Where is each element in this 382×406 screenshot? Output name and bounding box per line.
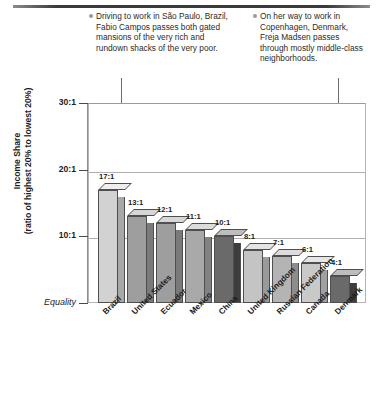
bar-value-label-0: 17:1 <box>99 172 114 181</box>
bar-value-label-3: 11:1 <box>186 212 201 221</box>
header-rule <box>13 5 370 8</box>
chart-figure: Driving to work in São Paulo, Brazil, Fa… <box>0 0 382 406</box>
bar-value-label-7: 6:1 <box>302 245 313 254</box>
y-tick-1 <box>79 170 88 171</box>
bar-front-face <box>127 216 147 303</box>
bar-value-label-5: 8:1 <box>244 232 255 241</box>
bullet-icon <box>89 14 93 18</box>
annotation-copenhagen: On her way to work in Copenhagen, Denmar… <box>253 11 369 64</box>
y-tick-2 <box>79 236 88 237</box>
y-axis-title: Income Share (ratio of highest 20% to lo… <box>12 66 34 256</box>
bar-value-label-6: 7:1 <box>273 238 284 247</box>
annotation-text: Driving to work in São Paulo, Brazil, Fa… <box>96 11 228 53</box>
annotation-sao-paulo: Driving to work in São Paulo, Brazil, Fa… <box>89 11 229 53</box>
bar-front-face <box>214 236 234 303</box>
bar-china <box>214 236 234 303</box>
y-tick-label-3: Equality <box>0 297 76 307</box>
bar-side-face <box>234 243 241 303</box>
gridline-20 <box>89 172 365 173</box>
y-axis-title-line1: Income Share <box>12 66 23 256</box>
y-tick-0 <box>79 103 88 104</box>
y-tick-label-2: 10:1 <box>0 230 76 240</box>
bar-side-face <box>118 197 125 303</box>
y-axis-title-line2: (ratio of highest 20% to lowest 20%) <box>23 66 34 256</box>
y-tick-label-1: 20:1 <box>0 164 76 174</box>
bar-brazil <box>98 190 118 303</box>
bar-value-label-1: 13:1 <box>128 198 143 207</box>
y-tick-3 <box>79 303 88 304</box>
bar-value-label-2: 12:1 <box>157 205 172 214</box>
annotation-text: On her way to work in Copenhagen, Denmar… <box>260 11 363 63</box>
bar-united-states <box>127 216 147 303</box>
y-tick-label-0: 30:1 <box>0 97 76 107</box>
bar-front-face <box>98 190 118 303</box>
bullet-icon <box>253 14 257 18</box>
bar-value-label-4: 10:1 <box>215 218 230 227</box>
